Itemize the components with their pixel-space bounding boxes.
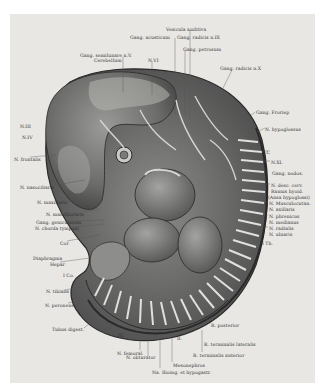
label-n-hypoglossus: N. hypoglossus <box>265 127 301 132</box>
label-n-nasociliaris: N. nasociliaris <box>20 185 54 190</box>
label-gang-geniculatum: Gang. geniculatum <box>36 220 81 225</box>
label-n-medianus: N. medianus <box>269 220 299 225</box>
label-tuba-digest: Tubus digest. <box>52 327 84 332</box>
label-1-co: I Co. <box>63 273 74 278</box>
label-gang-petrosum: Gang. petrosum <box>183 47 221 52</box>
label-n-mandibularis: N. mandibularis <box>46 212 84 217</box>
label-1-c: 1.C <box>262 150 270 155</box>
label-r-terminalis-lateralis: R. terminalis lateralis <box>204 342 256 347</box>
label-mesonephros: Mesonephros <box>173 363 205 368</box>
heart <box>135 169 195 221</box>
label-n-axillaris: N. axillaris <box>269 207 295 212</box>
label-ansa-hypoglossi: (Ansa hypoglossi) <box>268 195 310 200</box>
label-n-desc-cerv: N. desc. cerv. <box>271 183 303 188</box>
label-ii: II. <box>177 336 182 341</box>
label-cerebellum: Cerebellum <box>94 58 122 63</box>
label-hepar: Hepar <box>50 262 65 267</box>
label-gang-nodos: Gang. nodos. <box>272 171 303 176</box>
label-r-posterior: R. posterior <box>211 323 239 328</box>
label-r-terminalis-anterior: R. terminalis anterior <box>193 353 244 358</box>
label-n-peroneus: N. peroneus <box>45 303 74 308</box>
label-n-xi: N.XI. <box>271 160 283 165</box>
label-n-chorda-tympani: N. chorda tympani <box>35 226 79 231</box>
label-n-musculocutan: N. Musculocutan. <box>269 201 311 206</box>
label-n-phrenicus: N. phrenicus <box>269 214 299 219</box>
label-1-th: I Th. <box>262 241 273 246</box>
label-n-radialis: N. radialis <box>269 226 294 231</box>
label-gang-radicis-ix: Gang. radicis n.IX <box>177 35 220 40</box>
label-ramus-hyoid: Ramus hyoid. <box>271 189 303 194</box>
label-n-iv: N.IV <box>22 135 33 140</box>
liver <box>124 218 180 262</box>
label-gang-froriep: Gang. Froriep <box>256 110 289 115</box>
label-gang-acusticum: Gang. acusticum <box>130 35 170 40</box>
label-vesicula-auditiva: Vesicula auditiva <box>166 27 206 32</box>
label-na-iliolng-et-hypogastr: Na. Ilioing. et hypogastr. <box>152 370 211 375</box>
label-is: IS. <box>118 333 124 338</box>
label-n-ulnaris: N. ulnaris <box>269 232 292 237</box>
label-n-iii: N.III <box>20 124 31 129</box>
label-diaphragma: Diaphragma <box>33 256 62 261</box>
label-n-frontalis: N. frontalis <box>14 157 41 162</box>
label-n-maxillaris: N. maxillaris <box>37 200 67 205</box>
label-cor: Cor <box>60 241 69 246</box>
label-n-tibialis: N. tibialis <box>46 289 69 294</box>
label-gang-radicis-x: Gang. radicis n.X <box>220 66 261 71</box>
label-n-obturator: N. obturator <box>126 355 156 360</box>
label-n-vi: N.VI <box>148 58 159 63</box>
